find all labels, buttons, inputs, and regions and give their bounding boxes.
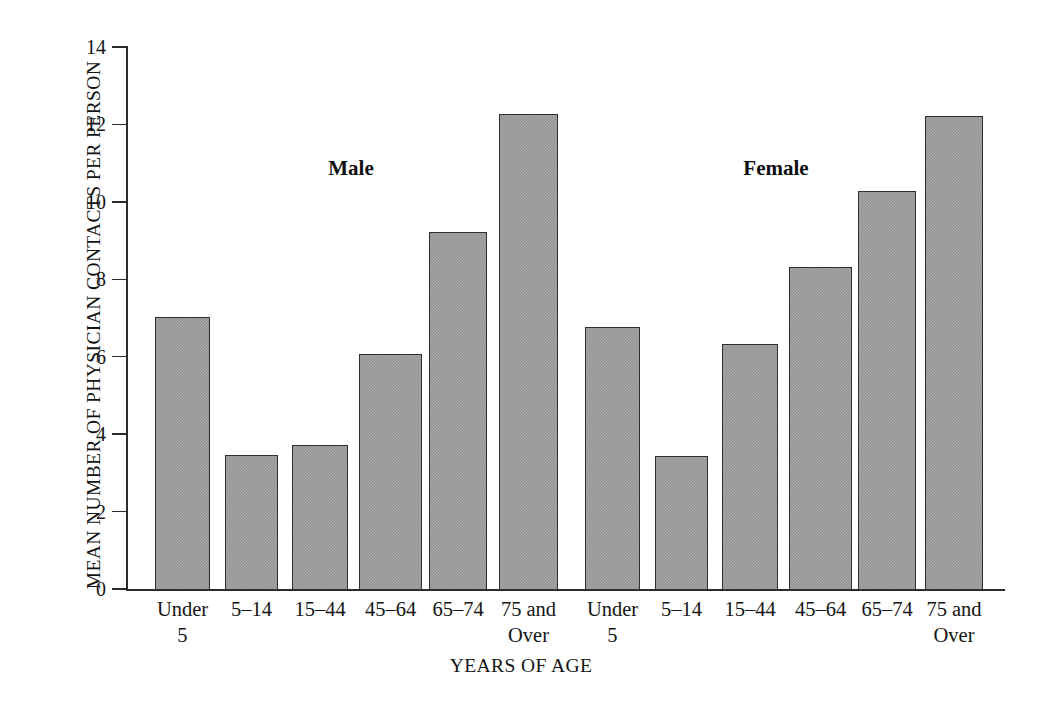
x-axis-category-label: Under5 — [157, 596, 208, 648]
category-label-line2: 5 — [157, 622, 208, 648]
bar — [858, 191, 916, 590]
y-axis-tick-mark — [112, 511, 126, 513]
category-label-line1: 5–14 — [231, 598, 272, 620]
physician-contacts-bar-chart: MEAN NUMBER OF PHYSICIAN CONTACTS PER PE… — [0, 0, 1042, 709]
x-axis-category-label: 5–14 — [231, 596, 272, 622]
y-axis-tick-mark — [112, 46, 126, 48]
x-axis-category-label: 15–44 — [294, 596, 345, 622]
x-axis-category-label: 75 andOver — [501, 596, 556, 648]
category-label-line1: 45–64 — [795, 598, 846, 620]
y-axis-tick-label: 12 — [86, 114, 106, 134]
bar — [789, 267, 852, 590]
x-axis-category-label: 45–64 — [795, 596, 846, 622]
x-axis-category-label: 75 andOver — [926, 596, 981, 648]
y-axis-tick-mark — [112, 356, 126, 358]
category-label-line1: Under — [587, 598, 638, 620]
category-label-line1: 15–44 — [724, 598, 775, 620]
category-label-line2: 5 — [587, 622, 638, 648]
category-label-line1: 65–74 — [861, 598, 912, 620]
category-label-line2: Over — [501, 622, 556, 648]
bar — [585, 327, 640, 590]
y-axis-tick-mark — [112, 124, 126, 126]
y-axis-tick-mark — [112, 588, 126, 590]
y-axis-tick-label: 4 — [96, 424, 106, 444]
plot-area — [126, 47, 1005, 590]
bar — [225, 455, 278, 591]
category-label-line1: 45–64 — [365, 598, 416, 620]
bar — [292, 445, 348, 590]
bar — [722, 344, 778, 590]
category-label-line1: 75 and — [501, 598, 556, 620]
x-axis-category-label: 45–64 — [365, 596, 416, 622]
category-label-line1: 15–44 — [294, 598, 345, 620]
bar — [499, 114, 558, 590]
x-axis-category-label: Under5 — [587, 596, 638, 648]
bar — [429, 232, 487, 590]
y-axis-tick-label: 14 — [86, 37, 106, 57]
category-label-line1: Under — [157, 598, 208, 620]
category-label-line1: 65–74 — [432, 598, 483, 620]
y-axis-tick-mark — [112, 201, 126, 203]
category-label-line1: 5–14 — [661, 598, 702, 620]
y-axis-tick-label: 2 — [96, 502, 106, 522]
x-axis-category-label: 5–14 — [661, 596, 702, 622]
bar — [155, 317, 210, 590]
y-axis-tick-mark — [112, 433, 126, 435]
y-axis-tick-label: 8 — [96, 269, 106, 289]
y-axis-tick-label: 10 — [86, 192, 106, 212]
x-axis-category-label: 65–74 — [432, 596, 483, 622]
bar — [655, 456, 708, 590]
bar — [925, 116, 983, 590]
x-axis-title: YEARS OF AGE — [0, 655, 1042, 677]
y-axis-tick-label: 0 — [96, 579, 106, 599]
category-label-line1: 75 and — [926, 598, 981, 620]
category-label-line2: Over — [926, 622, 981, 648]
y-axis-tick-mark — [112, 279, 126, 281]
y-axis-tick-label: 6 — [96, 347, 106, 367]
bar — [359, 354, 422, 590]
x-axis-category-label: 15–44 — [724, 596, 775, 622]
x-axis-category-label: 65–74 — [861, 596, 912, 622]
